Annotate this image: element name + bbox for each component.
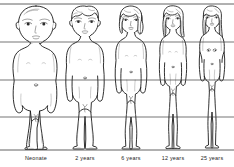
caption-twentyfive-years: 25 years (201, 155, 224, 161)
caption-six-years: 6 years (121, 155, 140, 161)
caption-neonate: Neonate (25, 155, 47, 161)
caption-two-years: 2 years (75, 155, 94, 161)
caption-twelve-years: 12 years (162, 155, 185, 161)
growth-proportion-diagram: Neonate 2 years 6 years 12 years 25 year… (0, 0, 234, 167)
